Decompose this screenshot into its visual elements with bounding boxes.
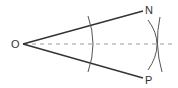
arc-from-upper-point [148, 20, 157, 70]
label-p: P [145, 74, 152, 86]
label-o: O [11, 38, 20, 50]
angle-bisector-diagram: O N P [0, 0, 178, 88]
ray-op [23, 44, 143, 78]
label-n: N [145, 4, 153, 16]
ray-on [23, 11, 143, 44]
